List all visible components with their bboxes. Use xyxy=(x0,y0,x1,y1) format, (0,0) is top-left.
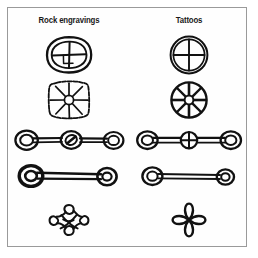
oval-with-cross-icon xyxy=(42,33,96,77)
motif-three-ring-bar-tattoo xyxy=(130,122,248,158)
two-ring-bar-light-icon xyxy=(140,161,238,191)
plate-frame: Rock engravings Tattoos xyxy=(7,7,247,247)
figure-root: Rock engravings Tattoos xyxy=(0,0,258,258)
motif-three-ring-bar-engraving xyxy=(8,122,130,158)
quatrefoil-knot-icon xyxy=(165,196,213,244)
column-headers: Rock engravings Tattoos xyxy=(8,8,246,34)
two-ring-bar-heavy-icon xyxy=(17,161,121,191)
motif-oval-with-cross-engraving xyxy=(8,32,130,78)
motif-two-ring-bar-tattoo xyxy=(130,158,248,194)
motif-grid xyxy=(8,32,248,246)
interlaced-quatrefoil-knot-icon xyxy=(43,196,95,244)
column-header-tattoos: Tattoos xyxy=(135,15,244,25)
three-ring-bar-icon xyxy=(13,125,125,155)
three-ring-bar-cross-icon xyxy=(135,125,243,155)
motif-quatrefoil-knot-tattoo xyxy=(130,194,248,246)
motif-interlaced-knot-engraving xyxy=(8,194,130,246)
motif-circle-with-cross-tattoo xyxy=(130,32,248,78)
circle-with-cross-icon xyxy=(166,33,212,77)
motif-spoked-wheel-tattoo xyxy=(130,78,248,122)
motif-two-ring-bar-engraving xyxy=(8,158,130,194)
motif-spoked-disc-engraving xyxy=(8,78,130,122)
column-header-rock-engravings: Rock engravings xyxy=(13,15,125,25)
spoked-wheel-icon xyxy=(166,78,212,122)
spoked-disc-icon xyxy=(44,78,94,122)
